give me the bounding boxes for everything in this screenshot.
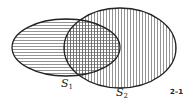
venn-diagram: S1 S2 2–1 [0, 0, 196, 105]
figure-label: 2–1 [170, 88, 183, 96]
set-s1-label: S1 [61, 77, 73, 91]
